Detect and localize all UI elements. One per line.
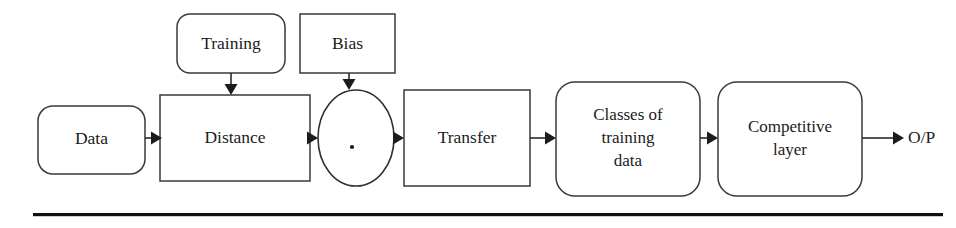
node-bias-label: Bias [332,33,363,53]
node-bias[interactable]: Bias [300,14,395,73]
edge-distance-to-product-arrowhead [307,132,318,145]
edge-training-to-distance [225,73,238,95]
node-transfer-label: Transfer [438,127,497,147]
node-distance[interactable]: Distance [160,95,310,181]
edge-transfer-to-classes [530,132,556,145]
node-competitive-label-line2: layer [773,140,807,159]
node-competitive-label-line1: Competitive [748,117,832,136]
diagram-canvas: Training Bias Data Distance Transfer [0,0,956,228]
node-distance-label: Distance [204,127,265,147]
edge-bias-to-product-arrowhead [343,79,356,90]
edge-competitive-to-output [862,132,904,145]
edge-training-to-distance-arrowhead [225,84,238,95]
node-training[interactable]: Training [177,14,285,73]
node-transfer[interactable]: Transfer [404,90,530,186]
node-competitive-layer[interactable]: Competitive layer [718,82,862,196]
diagram-svg: Training Bias Data Distance Transfer [0,0,956,228]
edge-classes-to-competitive-arrowhead [707,132,718,145]
output-label: O/P [908,127,936,147]
edge-transfer-to-classes-arrowhead [545,132,556,145]
node-product[interactable] [318,90,394,186]
node-classes-label-line1: Classes of [593,105,663,124]
dot-operator-icon [350,145,354,149]
edge-product-to-transfer [393,132,404,145]
edge-competitive-to-output-arrowhead [893,132,904,145]
footer-divider-rule [33,213,943,216]
edge-product-to-transfer-arrowhead [393,132,404,145]
node-data-label: Data [75,128,108,148]
edge-distance-to-product [307,132,318,145]
edge-classes-to-competitive [700,132,718,145]
edge-bias-to-product [343,73,356,90]
node-classes-of-training-data[interactable]: Classes of training data [556,82,700,196]
node-classes-label-line2: training [602,128,655,147]
node-product-shape [318,90,394,186]
node-training-label: Training [201,33,261,53]
node-classes-label-line3: data [614,151,643,170]
node-data[interactable]: Data [38,106,145,174]
